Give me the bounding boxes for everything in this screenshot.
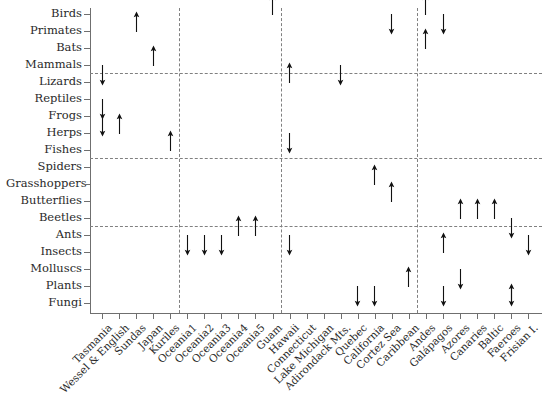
y-axis-label: Lizards [6, 76, 90, 88]
horizontal-guide-line [90, 73, 542, 74]
marker-arrow-down [200, 234, 209, 256]
marker-arrow-down [98, 115, 107, 137]
y-axis-label: Frogs [6, 110, 90, 122]
y-axis-label: Bats [6, 42, 90, 54]
x-axis-tick [528, 313, 529, 319]
x-axis-tick [136, 313, 137, 319]
x-axis-tick [392, 313, 393, 319]
y-axis-label: Grasshoppers [6, 178, 90, 190]
y-axis-tick [84, 48, 90, 49]
y-axis-label: Molluscs [6, 263, 90, 275]
marker-arrow-up [166, 130, 175, 152]
marker-arrow-down [439, 13, 448, 35]
y-axis-tick [84, 65, 90, 66]
marker-arrow-up [456, 198, 465, 220]
y-axis-tick [84, 218, 90, 219]
horizontal-guide-line [90, 158, 542, 159]
x-axis-tick [273, 313, 274, 319]
x-axis-tick [443, 313, 444, 319]
marker-arrow-down [217, 234, 226, 256]
vertical-guide-line [281, 8, 282, 313]
marker-arrow-up [404, 266, 413, 288]
marker-arrow-up [268, 0, 277, 16]
marker-arrow-up [473, 198, 482, 220]
y-axis-label: Beetles [6, 212, 90, 224]
x-axis-tick [119, 313, 120, 319]
y-axis-label: Ants [6, 229, 90, 241]
x-axis-tick [204, 313, 205, 319]
y-axis-label-group: BirdsPrimatesBatsMammalsLizardsReptilesF… [0, 0, 90, 320]
y-axis-label: Spiders [6, 161, 90, 173]
x-axis-tick [409, 313, 410, 319]
x-axis-tick [341, 313, 342, 319]
marker-arrow-down [285, 132, 294, 154]
marker-arrow-up [251, 215, 260, 237]
vertical-guide-line [179, 8, 180, 313]
y-axis-label: Plants [6, 280, 90, 292]
marker-arrow-down [439, 285, 448, 307]
x-axis-line [90, 313, 542, 314]
marker-arrow-up [149, 45, 158, 67]
x-axis-tick [324, 313, 325, 319]
y-axis-tick [84, 184, 90, 185]
x-axis-tick [307, 313, 308, 319]
marker-arrow-down [524, 234, 533, 256]
x-axis-tick [511, 313, 512, 319]
x-axis-tick [153, 313, 154, 319]
marker-arrow-up [421, 28, 430, 50]
y-axis-tick [84, 116, 90, 117]
x-axis-tick [170, 313, 171, 319]
y-axis-label: Mammals [6, 59, 90, 71]
marker-arrow-up [490, 198, 499, 220]
y-axis-label: Birds [6, 8, 90, 20]
y-axis-label: Primates [6, 25, 90, 37]
horizontal-guide-line [90, 226, 542, 227]
marker-arrow-down [456, 268, 465, 290]
x-axis-tick [102, 313, 103, 319]
x-axis-tick [238, 313, 239, 319]
marker-arrow-up [285, 62, 294, 84]
marker-arrow-up [387, 181, 396, 203]
y-axis-tick [84, 167, 90, 168]
marker-arrow-up [439, 232, 448, 254]
y-axis-label: Fungi [6, 297, 90, 309]
marker-arrow-up [421, 0, 430, 16]
y-axis-tick [84, 133, 90, 134]
y-axis-tick [84, 269, 90, 270]
marker-arrow-up [234, 215, 243, 237]
x-axis-tick [375, 313, 376, 319]
y-axis-tick [84, 99, 90, 100]
marker-arrow-down [507, 217, 516, 239]
x-axis-tick [255, 313, 256, 319]
y-axis-tick [84, 150, 90, 151]
y-axis-tick [84, 235, 90, 236]
y-axis-label: Fishes [6, 144, 90, 156]
y-axis-tick [84, 31, 90, 32]
marker-arrow-up [132, 11, 141, 33]
vertical-guide-line [417, 8, 418, 313]
x-axis-tick [477, 313, 478, 319]
x-axis-tick [187, 313, 188, 319]
marker-arrow-down [387, 13, 396, 35]
marker-arrow-down [336, 64, 345, 86]
y-axis-label: Insects [6, 246, 90, 258]
scatter-chart: BirdsPrimatesBatsMammalsLizardsReptilesF… [0, 0, 548, 396]
x-axis-tick [290, 313, 291, 319]
marker-arrow-down [98, 64, 107, 86]
marker-arrow-down [183, 234, 192, 256]
y-axis-tick [84, 14, 90, 15]
x-axis-tick [460, 313, 461, 319]
marker-arrow-down [285, 234, 294, 256]
y-axis-label: Reptiles [6, 93, 90, 105]
x-axis-tick [358, 313, 359, 319]
marker-arrow-up [507, 283, 516, 305]
y-axis-tick [84, 82, 90, 83]
marker-arrow-down [370, 285, 379, 307]
y-axis-label: Herps [6, 127, 90, 139]
y-axis-label: Butterflies [6, 195, 90, 207]
y-axis-tick [84, 303, 90, 304]
marker-arrow-down [353, 285, 362, 307]
x-axis-tick [426, 313, 427, 319]
marker-arrow-up [115, 113, 124, 135]
y-axis-tick [84, 252, 90, 253]
